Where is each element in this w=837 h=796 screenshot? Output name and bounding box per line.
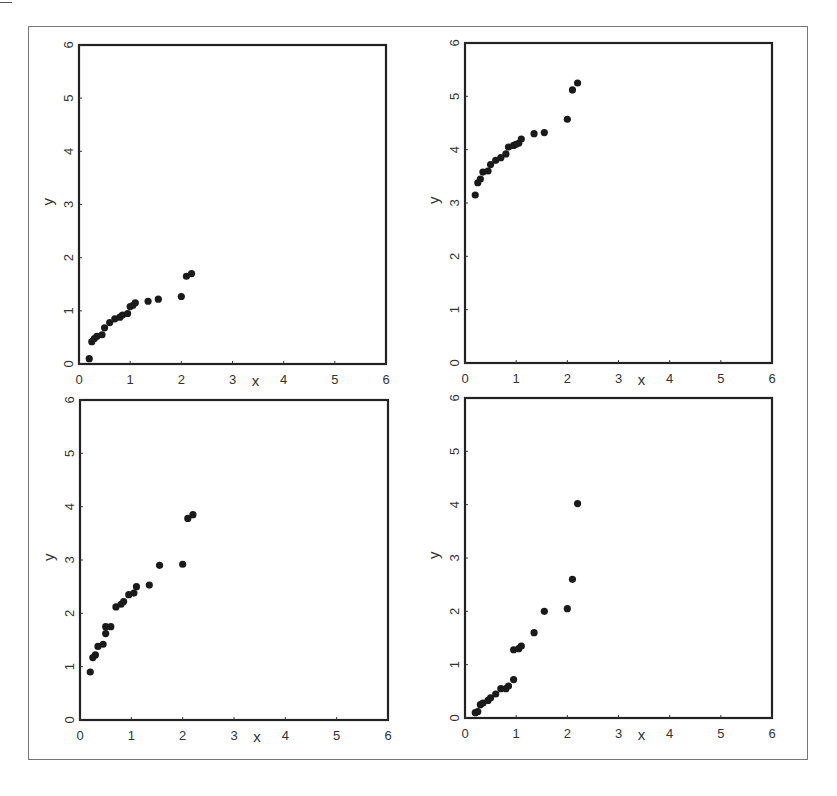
y-tick-label: 3 bbox=[447, 199, 462, 206]
data-point bbox=[102, 630, 109, 637]
data-point bbox=[502, 150, 509, 157]
y-tick-label: 1 bbox=[61, 307, 76, 314]
data-point bbox=[474, 708, 481, 715]
x-tick-label: 3 bbox=[230, 728, 237, 743]
y-tick-label: 1 bbox=[447, 306, 462, 313]
data-point bbox=[541, 129, 548, 136]
data-point bbox=[130, 589, 137, 596]
x-tick-label: 1 bbox=[128, 728, 135, 743]
scatter-panel-top-right: 01234560123456xy bbox=[465, 43, 772, 363]
data-point bbox=[156, 562, 163, 569]
data-point bbox=[530, 629, 537, 636]
x-tick-label: 5 bbox=[717, 371, 724, 386]
y-axis-label: y bbox=[40, 553, 57, 561]
x-tick-label: 1 bbox=[513, 371, 520, 386]
y-axis-label: y bbox=[39, 198, 56, 206]
scatter-panel-top-left: 01234560123456xy bbox=[79, 45, 386, 364]
data-point bbox=[86, 355, 93, 362]
x-tick-label: 0 bbox=[76, 728, 83, 743]
y-axis-label: y bbox=[425, 196, 442, 204]
data-point bbox=[492, 690, 499, 697]
data-point bbox=[541, 608, 548, 615]
x-tick-label: 5 bbox=[331, 372, 338, 387]
data-point bbox=[98, 331, 105, 338]
plot-area-frame bbox=[465, 398, 772, 718]
data-point bbox=[107, 623, 114, 630]
data-point bbox=[564, 605, 571, 612]
x-tick-label: 0 bbox=[461, 371, 468, 386]
x-tick-label: 2 bbox=[564, 371, 571, 386]
x-tick-label: 6 bbox=[384, 728, 391, 743]
y-tick-label: 5 bbox=[447, 93, 462, 100]
data-point bbox=[530, 130, 537, 137]
x-tick-label: 1 bbox=[513, 726, 520, 741]
x-tick-label: 1 bbox=[127, 372, 134, 387]
y-tick-label: 2 bbox=[62, 610, 77, 617]
scatter-panel-bottom-left: 01234560123456xy bbox=[80, 400, 388, 720]
x-tick-label: 5 bbox=[717, 726, 724, 741]
data-point bbox=[101, 324, 108, 331]
scatter-panel-bottom-right: 01234560123456xy bbox=[465, 398, 772, 718]
x-tick-label: 0 bbox=[75, 372, 82, 387]
x-tick-label: 6 bbox=[382, 372, 389, 387]
y-tick-label: 3 bbox=[61, 201, 76, 208]
x-tick-label: 3 bbox=[615, 371, 622, 386]
x-tick-label: 4 bbox=[280, 372, 287, 387]
data-point bbox=[87, 668, 94, 675]
x-tick-label: 2 bbox=[178, 372, 185, 387]
x-tick-label: 6 bbox=[768, 726, 775, 741]
y-tick-label: 2 bbox=[447, 608, 462, 615]
x-tick-label: 2 bbox=[179, 728, 186, 743]
y-tick-label: 4 bbox=[447, 501, 462, 508]
data-point bbox=[120, 598, 127, 605]
data-point bbox=[574, 79, 581, 86]
plot-area-frame bbox=[80, 400, 388, 720]
x-tick-label: 3 bbox=[229, 372, 236, 387]
data-point bbox=[472, 191, 479, 198]
y-tick-label: 6 bbox=[62, 396, 77, 403]
data-point bbox=[518, 642, 525, 649]
y-axis-label: y bbox=[425, 551, 442, 559]
data-point bbox=[569, 576, 576, 583]
data-point bbox=[505, 682, 512, 689]
data-point bbox=[564, 116, 571, 123]
data-point bbox=[477, 175, 484, 182]
data-point bbox=[178, 293, 185, 300]
data-point bbox=[189, 511, 196, 518]
y-tick-label: 6 bbox=[61, 41, 76, 48]
y-tick-label: 1 bbox=[62, 663, 77, 670]
plot-area-frame bbox=[465, 43, 772, 363]
y-tick-label: 2 bbox=[447, 253, 462, 260]
x-tick-label: 4 bbox=[666, 371, 673, 386]
x-tick-label: 3 bbox=[615, 726, 622, 741]
y-tick-label: 0 bbox=[62, 716, 77, 723]
data-point bbox=[146, 581, 153, 588]
data-point bbox=[124, 310, 131, 317]
y-tick-label: 0 bbox=[447, 714, 462, 721]
x-axis-label: x bbox=[253, 728, 261, 745]
data-point bbox=[133, 583, 140, 590]
data-point bbox=[510, 676, 517, 683]
y-tick-label: 0 bbox=[447, 359, 462, 366]
y-tick-label: 5 bbox=[447, 448, 462, 455]
data-point bbox=[144, 298, 151, 305]
data-point bbox=[569, 86, 576, 93]
y-tick-label: 6 bbox=[447, 39, 462, 46]
data-point bbox=[484, 167, 491, 174]
y-tick-label: 3 bbox=[447, 554, 462, 561]
y-tick-label: 4 bbox=[447, 146, 462, 153]
data-point bbox=[100, 641, 107, 648]
x-tick-label: 5 bbox=[333, 728, 340, 743]
y-tick-label: 3 bbox=[62, 556, 77, 563]
y-tick-label: 6 bbox=[447, 394, 462, 401]
x-axis-label: x bbox=[252, 372, 260, 389]
data-point bbox=[518, 135, 525, 142]
x-axis-label: x bbox=[638, 726, 646, 743]
y-tick-label: 5 bbox=[61, 95, 76, 102]
y-tick-label: 2 bbox=[61, 254, 76, 261]
data-point bbox=[188, 270, 195, 277]
x-axis-label: x bbox=[638, 371, 646, 388]
data-point bbox=[574, 500, 581, 507]
y-tick-label: 0 bbox=[61, 360, 76, 367]
x-tick-label: 2 bbox=[564, 726, 571, 741]
